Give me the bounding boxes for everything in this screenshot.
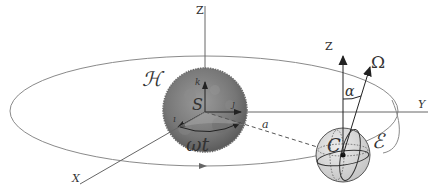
x-axis-label: X [71, 172, 81, 185]
orbit-diagram: Z X Y ℋ S k ȷ ı ωt a C ℰ Z Ω α [0, 0, 436, 188]
sun-center-label: S [192, 95, 203, 114]
heliocentric-frame-label: ℋ [142, 67, 165, 91]
earth-center-label: C [327, 135, 341, 156]
unit-i-label: ı [173, 114, 176, 124]
earth-frame-label: ℰ [372, 129, 386, 153]
distance-label: a [262, 118, 269, 131]
unit-k-label: k [195, 77, 200, 87]
angle-label: ωt [186, 133, 209, 155]
tilt-angle-label: α [345, 83, 355, 99]
earth-z-axis-label: Z [325, 40, 333, 53]
sun-z-axis-label: Z [196, 4, 204, 17]
y-axis-label: Y [418, 98, 427, 111]
orbit-direction-arrow [199, 163, 207, 169]
rotation-vector-label: Ω [371, 52, 385, 72]
earth-frame-connector [383, 100, 399, 153]
